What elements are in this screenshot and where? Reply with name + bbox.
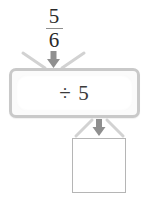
- input-down-arrow-icon: [47, 51, 60, 68]
- function-machine-diagram: 5 6 ÷ 5: [0, 0, 148, 197]
- input-funnel-right-line: [62, 53, 84, 68]
- answer-value: [73, 139, 125, 192]
- operation-machine: ÷ 5: [9, 68, 140, 118]
- output-funnel-left-line: [76, 120, 92, 136]
- output-funnel-right-line: [107, 120, 123, 136]
- output-down-arrow-icon: [93, 119, 106, 136]
- input-funnel-left-line: [23, 53, 45, 68]
- answer-box[interactable]: [72, 138, 126, 193]
- machine-operation-label: ÷ 5: [59, 83, 89, 104]
- machine-inner-panel: ÷ 5: [16, 75, 133, 111]
